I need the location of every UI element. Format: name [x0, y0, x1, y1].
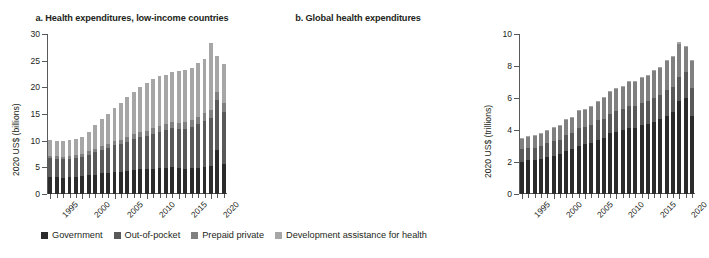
panel-b-bar-segment [621, 86, 625, 87]
panel-a-bar-segment [183, 129, 187, 169]
panel-a-bar [183, 70, 187, 194]
panel-a-bar [158, 76, 162, 194]
panel-b-bar-segment [671, 112, 675, 194]
panel-b-bar-segment [539, 146, 543, 159]
panel-a-y-axis-label: 2020 US$ (billions) [11, 103, 21, 176]
panel-a-bar-segment [68, 140, 72, 156]
panel-b-bar-segment [577, 146, 581, 194]
panel-a-bar-segment [209, 118, 213, 166]
panel-a-plot-area: 051015202530199520002005201020152020 [47, 34, 227, 194]
panel-b-bar [640, 77, 644, 194]
panel-a-bar-segment [138, 87, 142, 131]
panel-b-x-tick [554, 194, 555, 199]
panel-b-bar-segment [633, 82, 637, 106]
panel-a-bar [106, 114, 110, 194]
panel-b-bar-segment [658, 95, 662, 119]
panel-a-bar-segment [80, 157, 84, 177]
panel-a-bar-segment [164, 130, 168, 168]
panel-b-bar [564, 119, 568, 194]
panel-b-bar-segment [564, 151, 568, 194]
panel-a-bar-segment [190, 168, 194, 194]
panel-b-x-tick [579, 194, 580, 198]
panel-a-y-tick-label: 20 [30, 83, 40, 92]
panel-a-bar-segment [151, 169, 155, 194]
legend-item[interactable]: Government [41, 230, 103, 240]
panel-a-bar [151, 79, 155, 194]
panel-b-bar-segment [570, 117, 574, 133]
panel-a-bar-segment [106, 144, 110, 148]
panel-b-y-tick [514, 130, 519, 131]
panel-a-bar [215, 56, 219, 194]
panel-a-x-tick [153, 194, 154, 198]
panel-b-title: b. Global health expenditures [236, 13, 474, 23]
panel-b-bar-segment [677, 42, 681, 43]
panel-a-bar-segment [119, 172, 123, 194]
panel-b-bar-segment [558, 154, 562, 194]
panel-a-bar-segment [74, 155, 78, 158]
panel-a-bar-segment [145, 136, 149, 170]
legend-item[interactable]: Development assistance for health [275, 230, 427, 240]
panel-b-bar [520, 138, 524, 194]
panel-a-bar-segment [151, 79, 155, 128]
panel-b-bar-segment [690, 60, 694, 61]
panel-b-x-tick [623, 194, 624, 198]
panel-b-bar [589, 106, 593, 194]
panel-a-bar-segment [55, 177, 59, 194]
panel-a-bar [138, 87, 142, 194]
panel-a-bar-segment [61, 157, 65, 160]
panel-a-x-tick [211, 194, 212, 199]
panel-b-bar-segment [564, 119, 568, 135]
panel-a-bar-segment [55, 141, 59, 156]
panel-a-bar [87, 132, 91, 194]
panel-a-bar-segment [132, 92, 136, 134]
panel-a-bar [177, 71, 181, 194]
legend-item[interactable]: Out-of-pocket [114, 230, 181, 240]
panel-b-bar-segment [552, 156, 556, 194]
panel-b-y-tick [514, 34, 519, 35]
panel-a-bar-segment [48, 140, 52, 155]
panel-a-x-tick [134, 194, 135, 198]
panel-b-bar-segment [665, 60, 669, 61]
panel-a-bar-segment [158, 76, 162, 126]
panel-b-bar-segment [545, 143, 549, 157]
legend-item-label: Out-of-pocket [125, 230, 181, 240]
panel-a-bar-segment [190, 68, 194, 120]
legend-item[interactable]: Prepaid private [191, 230, 264, 240]
panel-a-bar-segment [68, 177, 72, 194]
panel-b-bar [558, 125, 562, 194]
panel-a-bar-segment [215, 92, 219, 100]
panel-a-bar-segment [170, 72, 174, 122]
panel-a-bar-segment [164, 75, 168, 124]
panel-a-bar-segment [132, 170, 136, 194]
panel-a-bar [209, 43, 213, 194]
panel-a-bar-segment [74, 139, 78, 155]
panel-a-bar-segment [80, 176, 84, 194]
panel-b-bar-segment [684, 72, 688, 98]
panel-a-bar-segment [132, 134, 136, 139]
panel-b-bar-segment [602, 119, 606, 138]
panel-a-bar-segment [106, 148, 110, 173]
panel-b-x-tick [541, 194, 542, 198]
panel-b-bar-segment [520, 138, 524, 149]
panel-a-x-tick-label: 2005 [125, 200, 144, 219]
panel-a-x-tick [89, 194, 90, 198]
panel-a-bar-segment [74, 177, 78, 194]
panel-a-bar [113, 108, 117, 194]
panel-b-bar-segment [646, 75, 650, 76]
panel-b-x-tick [585, 194, 586, 199]
panel-a-bar-segment [106, 173, 110, 194]
legend-swatch-icon [191, 232, 198, 239]
panel-a-x-tick [147, 194, 148, 199]
panel-a-bar [196, 63, 200, 194]
panel-a-bar-segment [145, 169, 149, 194]
panel-b-bar-segment [614, 111, 618, 132]
panel-a-x-tick [127, 194, 128, 198]
panel-b-x-tick-label: 1995 [533, 200, 552, 219]
panel-a-bar-segment [222, 64, 226, 103]
panel-a-x-tick [179, 194, 180, 199]
panel-b-bar-segment [577, 111, 581, 129]
panel-a-bar-segment [87, 151, 91, 154]
panel-a-bar-segment [61, 141, 65, 157]
panel-a-x-tick [121, 194, 122, 198]
panel-a-x-tick [95, 194, 96, 198]
